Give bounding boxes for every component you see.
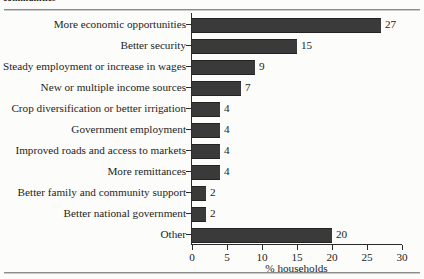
category-label: Better family and community support [18,182,186,203]
y-axis-tick [186,108,191,109]
bar-value-label: 2 [210,204,216,223]
bar [192,81,241,96]
y-axis-tick [186,24,191,25]
bar [192,228,332,243]
y-axis-tick [186,45,191,46]
bar-value-label: 9 [259,57,265,76]
category-label: Improved roads and access to markets [15,140,186,161]
bar [192,39,297,54]
bar-row: New or multiple income sources7 [0,77,424,98]
category-label: Other [161,224,186,245]
y-axis-tick [186,234,191,235]
bar-row: Other20 [0,224,424,245]
category-label: New or multiple income sources [41,77,186,98]
y-axis-tick [186,192,191,193]
bar [192,144,220,159]
bar [192,165,220,180]
bar-row: Better national government2 [0,203,424,224]
bar-value-label: 4 [224,120,230,139]
y-axis-tick [186,213,191,214]
y-axis-tick [186,129,191,130]
bar-value-label: 20 [336,225,347,244]
bar-row: More economic opportunities27 [0,14,424,35]
category-label: Better security [120,35,186,56]
bar-chart-plot: More economic opportunities27Better secu… [0,0,424,279]
bar [192,207,206,222]
category-label: More economic opportunities [54,14,186,35]
y-axis-tick [186,171,191,172]
bar-value-label: 7 [245,78,251,97]
bar-row: More remittances4 [0,161,424,182]
bar-value-label: 2 [210,183,216,202]
category-label: Better national government [64,203,186,224]
bar-value-label: 4 [224,99,230,118]
chart-page: communities More economic opportunities2… [0,0,424,279]
x-axis-title: % households [191,262,402,274]
bar [192,60,255,75]
bar-row: Steady employment or increase in wages9 [0,56,424,77]
y-axis-tick [186,66,191,67]
bar [192,102,220,117]
bar [192,123,220,138]
y-axis-tick [186,87,191,88]
category-label: More remittances [107,161,186,182]
y-axis-tick [186,150,191,151]
bar-value-label: 4 [224,141,230,160]
bar [192,186,206,201]
bar-row: Government employment4 [0,119,424,140]
bar-row: Better family and community support2 [0,182,424,203]
bar [192,18,381,33]
bar-value-label: 15 [301,36,312,55]
bar-row: Crop diversification or better irrigatio… [0,98,424,119]
category-label: Steady employment or increase in wages [3,56,186,77]
bar-row: Better security15 [0,35,424,56]
bar-row: Improved roads and access to markets4 [0,140,424,161]
bar-value-label: 4 [224,162,230,181]
bar-value-label: 27 [385,15,396,34]
category-label: Government employment [71,119,186,140]
category-label: Crop diversification or better irrigatio… [11,98,186,119]
